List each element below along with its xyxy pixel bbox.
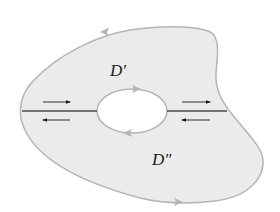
region-diagram: D′ D″ (0, 0, 280, 212)
region-d (20, 27, 263, 203)
outer-boundary-arrow-top-icon (100, 28, 109, 37)
label-d-prime: D′ (109, 61, 126, 80)
label-d-double-prime: D″ (151, 150, 172, 169)
